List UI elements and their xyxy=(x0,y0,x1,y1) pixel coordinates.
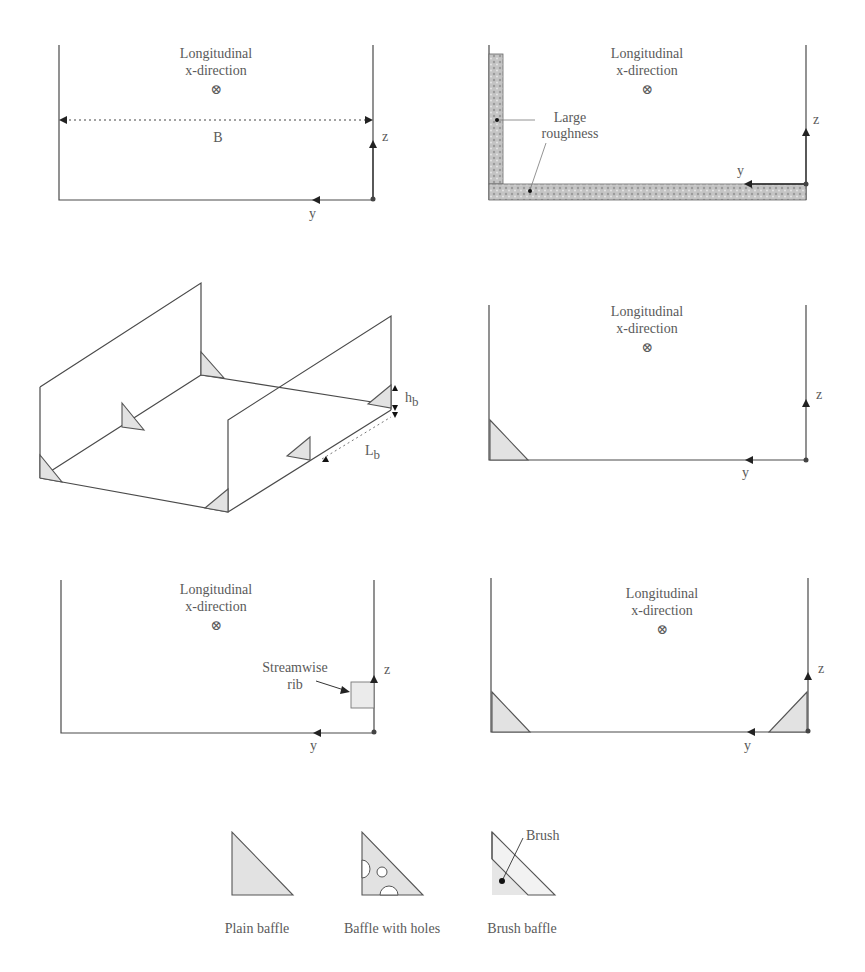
flow-label-line2: x-direction xyxy=(185,599,246,614)
y-axis-arrow-icon xyxy=(312,196,320,204)
legend: Plain baffle Baffle with holes Brush Bru… xyxy=(225,828,560,936)
z-axis-arrow-icon xyxy=(802,128,810,136)
callout-dot-wall xyxy=(495,118,499,122)
back-wall xyxy=(40,283,201,478)
y-axis-arrow-icon xyxy=(745,456,753,464)
panel-smooth-channel: Longitudinal x-direction ⊗ B z y xyxy=(59,45,388,221)
flow-into-page-icon: ⊗ xyxy=(641,82,653,97)
plain-baffle-icon xyxy=(368,385,391,408)
flow-label-line1: Longitudinal xyxy=(180,582,252,597)
origin-dot xyxy=(372,730,377,735)
brush-dot xyxy=(499,878,505,884)
callout-dot-bed xyxy=(528,189,532,193)
plain-baffle-icon xyxy=(287,437,310,460)
legend-label-holes: Baffle with holes xyxy=(344,921,440,936)
plain-baffle-icon xyxy=(769,692,807,732)
brush-callout-label: Brush xyxy=(526,828,559,843)
roughness-callout-line2: roughness xyxy=(542,126,599,141)
origin-dot xyxy=(371,197,376,202)
y-axis-label: y xyxy=(737,163,744,178)
holed-baffle-icon xyxy=(362,832,423,895)
streamwise-rib xyxy=(351,682,374,708)
plain-baffle-icon xyxy=(122,403,144,430)
origin-dot xyxy=(806,729,811,734)
rib-callout-leader xyxy=(316,681,344,690)
length-arrow-start-icon xyxy=(322,456,329,462)
rib-callout-arrow-icon xyxy=(340,686,350,694)
plain-baffle-icon xyxy=(492,692,530,732)
panel-streamwise-rib: Longitudinal x-direction ⊗ Streamwise ri… xyxy=(61,580,390,753)
y-axis-label: y xyxy=(310,738,317,753)
y-axis-arrow-icon xyxy=(747,728,755,736)
plain-baffle-icon xyxy=(201,352,224,378)
flow-into-page-icon: ⊗ xyxy=(210,618,222,633)
length-label: Lb xyxy=(365,443,380,462)
figure-canvas: Longitudinal x-direction ⊗ B z y Longitu… xyxy=(0,0,865,972)
plain-baffle-icon xyxy=(490,420,528,460)
length-dimension-line xyxy=(322,417,391,459)
arrow-left-icon xyxy=(59,116,67,124)
plain-baffle-icon xyxy=(205,489,228,512)
flow-label-line2: x-direction xyxy=(616,63,677,78)
origin-dot xyxy=(804,458,809,463)
flow-label-line2: x-direction xyxy=(631,603,692,618)
front-wall xyxy=(228,316,391,512)
height-arrow-up-icon xyxy=(392,385,398,391)
roughness-callout-line1: Large xyxy=(554,110,586,125)
y-axis-arrow-icon xyxy=(313,729,321,737)
z-axis-label: z xyxy=(818,661,824,676)
legend-label-brush: Brush baffle xyxy=(487,921,556,936)
channel-floor xyxy=(40,375,391,512)
flow-label-line2: x-direction xyxy=(616,321,677,336)
height-arrow-down-icon xyxy=(392,405,398,411)
plain-baffle-icon xyxy=(40,455,62,482)
origin-dot xyxy=(804,182,809,187)
flow-label-line1: Longitudinal xyxy=(611,46,683,61)
z-axis-arrow-icon xyxy=(802,399,810,407)
y-axis-label: y xyxy=(742,465,749,480)
flow-label-line1: Longitudinal xyxy=(180,46,252,61)
bed-roughness-band xyxy=(489,184,806,200)
z-axis-label: z xyxy=(813,112,819,127)
panel-large-roughness: Longitudinal x-direction ⊗ Large roughne… xyxy=(489,45,819,200)
arrow-right-icon xyxy=(365,116,373,124)
y-axis-label: y xyxy=(309,206,316,221)
plain-baffle-icon xyxy=(232,832,293,895)
rib-callout-line2: rib xyxy=(287,677,303,692)
flow-label-line1: Longitudinal xyxy=(611,304,683,319)
flow-into-page-icon: ⊗ xyxy=(210,82,222,97)
panel-double-baffle: Longitudinal x-direction ⊗ z y xyxy=(491,578,824,753)
z-axis-arrow-icon xyxy=(369,140,377,148)
z-axis-label: z xyxy=(816,387,822,402)
z-axis-label: z xyxy=(382,129,388,144)
z-axis-arrow-icon xyxy=(804,672,812,680)
rib-callout-line1: Streamwise xyxy=(262,660,327,675)
length-arrow-end-icon xyxy=(392,412,398,418)
panel-isometric-channel: hb Lb xyxy=(40,283,419,512)
channel-outline xyxy=(491,578,808,732)
flow-into-page-icon: ⊗ xyxy=(641,340,653,355)
flow-label-line1: Longitudinal xyxy=(626,586,698,601)
height-label: hb xyxy=(405,390,419,409)
z-axis-arrow-icon xyxy=(370,675,378,683)
callout-leader-bed xyxy=(530,143,546,190)
y-axis-label: y xyxy=(744,738,751,753)
width-label: B xyxy=(213,130,222,145)
panel-single-baffle: Longitudinal x-direction ⊗ z y xyxy=(489,304,822,480)
flow-into-page-icon: ⊗ xyxy=(656,622,668,637)
flow-label-line2: x-direction xyxy=(185,63,246,78)
legend-label-plain: Plain baffle xyxy=(225,921,290,936)
z-axis-label: z xyxy=(384,662,390,677)
